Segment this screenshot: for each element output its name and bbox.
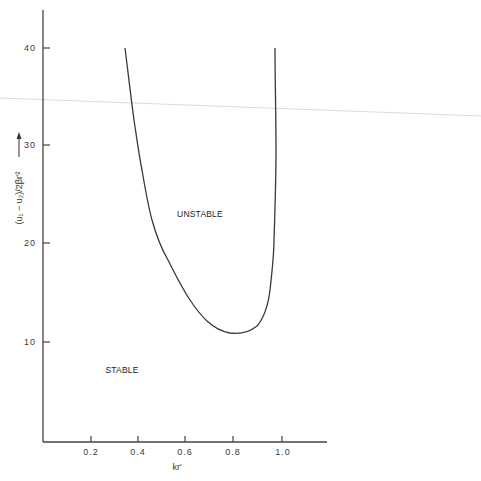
x-tick-label: 0.2 xyxy=(83,447,99,457)
stable-region-label: STABLE xyxy=(105,365,138,375)
neutral-stability-curve xyxy=(125,48,276,333)
y-tick-label: 10 xyxy=(24,337,36,347)
y-tick-labels: 10 20 30 40 xyxy=(24,43,36,347)
y-tick-label: 30 xyxy=(24,140,36,150)
y-tick-label: 40 xyxy=(24,43,36,53)
x-tick-label: 1.0 xyxy=(275,447,291,457)
x-tick-label: 0.4 xyxy=(130,447,146,457)
y-axis-arrow-icon xyxy=(17,132,22,157)
unstable-region-label: UNSTABLE xyxy=(177,209,223,219)
x-tick-label: 0.6 xyxy=(177,447,193,457)
y-ticks xyxy=(43,48,50,342)
y-tick-label: 20 xyxy=(24,238,36,248)
x-axis-label: kr′ xyxy=(172,462,181,472)
y-axis-label: (u₁ − u₂)/2βr′² xyxy=(14,171,24,224)
x-tick-label: 0.8 xyxy=(225,447,241,457)
scan-artifact-line xyxy=(0,98,481,116)
x-ticks xyxy=(91,436,282,442)
x-tick-labels: 0.2 0.4 0.6 0.8 1.0 xyxy=(83,447,291,457)
stability-chart: 0.2 0.4 0.6 0.8 1.0 kr′ 10 20 30 40 (u₁ … xyxy=(0,0,481,481)
